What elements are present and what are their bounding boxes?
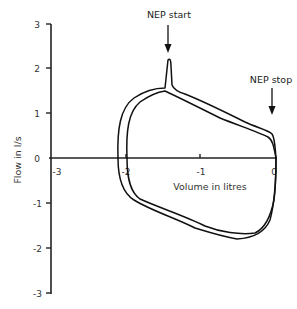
y-tick-label: -1 (33, 199, 42, 209)
y-tick-label: 0 (34, 154, 40, 164)
nep-stop-arrow (269, 88, 276, 115)
x-tick-label: -3 (53, 167, 62, 177)
x-axis-title: Volume in litres (173, 181, 247, 192)
nep-start-label: NEP start (147, 9, 191, 20)
nep-stop-label: NEP stop (250, 74, 292, 85)
y-tick-label: 2 (34, 64, 40, 74)
y-tick-label: -2 (33, 244, 42, 254)
y-tick-label: -3 (33, 289, 42, 299)
x-tick-label: -2 (122, 167, 131, 177)
nep-start-arrow (165, 25, 172, 53)
y-tick-label: 3 (34, 20, 40, 30)
flow-volume-loops (118, 59, 276, 239)
y-axis-title: Flow in l/s (12, 136, 23, 183)
y-tick-label: 1 (34, 109, 40, 119)
flow-volume-chart: 3 2 1 0 -1 -2 -3 -3 -2 -1 0 Volume in li… (0, 0, 297, 309)
x-tick-label: -1 (197, 167, 206, 177)
